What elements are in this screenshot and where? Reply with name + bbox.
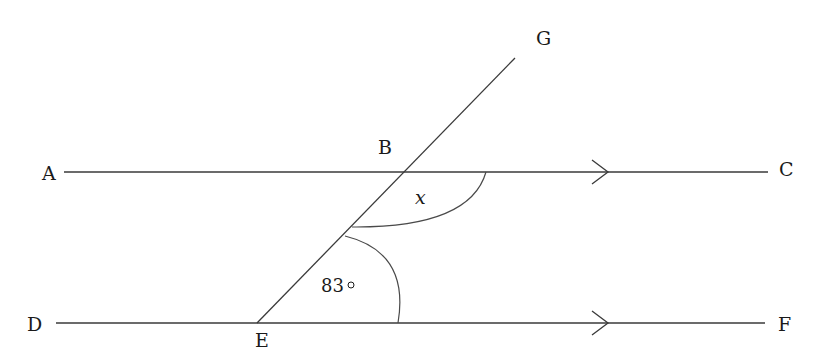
label-g: G: [536, 27, 551, 49]
geometry-diagram: A B C D E F G x 83: [0, 0, 826, 361]
label-e: E: [255, 329, 269, 351]
label-f: F: [778, 313, 791, 335]
angle-83-label: 83: [321, 275, 344, 296]
label-d: D: [27, 313, 42, 335]
degree-symbol-icon: [348, 282, 354, 288]
angle-83-value: 83: [321, 275, 344, 296]
angle-x-label: x: [415, 186, 426, 208]
label-a: A: [41, 162, 56, 184]
angle-83-arc: [345, 236, 400, 323]
label-c: C: [779, 158, 794, 180]
label-b: B: [378, 136, 392, 158]
